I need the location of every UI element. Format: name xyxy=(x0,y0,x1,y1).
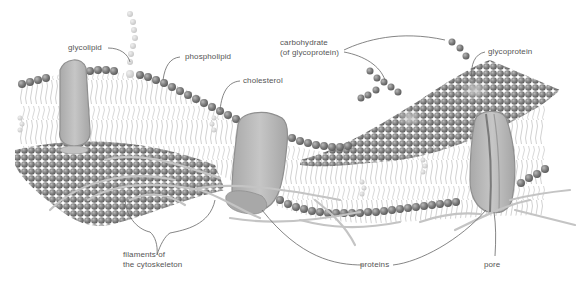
label-glycolipid: glycolipid xyxy=(68,43,102,53)
label-cholesterol: cholesterol xyxy=(243,76,283,86)
label-glycoprotein: glycoprotein xyxy=(488,47,532,57)
label-carbohydrate-line1: carbohydrate xyxy=(280,38,339,48)
protein-pore xyxy=(470,111,515,212)
label-pore: pore xyxy=(484,260,500,270)
glycolipid-chain xyxy=(127,11,138,65)
label-phospholipid: phospholipid xyxy=(185,52,231,62)
label-filaments: filaments of the cytoskeleton xyxy=(123,250,182,270)
cell-membrane-diagram: glycolipid phospholipid cholesterol carb… xyxy=(0,0,582,287)
label-filaments-line2: the cytoskeleton xyxy=(123,260,182,270)
label-filaments-line1: filaments of xyxy=(123,250,182,260)
protein-left xyxy=(60,60,90,154)
label-carbohydrate-line2: (of glycoprotein) xyxy=(280,48,339,58)
label-carbohydrate: carbohydrate (of glycoprotein) xyxy=(280,38,339,58)
label-proteins: proteins xyxy=(360,260,389,270)
